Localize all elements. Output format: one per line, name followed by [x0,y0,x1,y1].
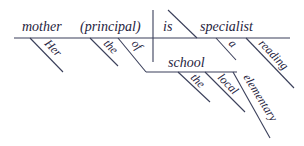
appositive-word: (principal) [80,19,141,35]
predicate-slash [168,10,197,38]
verb-word: is [163,19,173,34]
object-modifier-elementary: elementary [240,71,280,124]
predicate-word: specialist [200,19,254,34]
diagram-canvas: mother (principal) is specialist Her the… [0,0,304,146]
preposition-of: of [129,37,147,55]
sentence-diagram: mother (principal) is specialist Her the… [0,0,304,146]
modifier-the: the [101,36,122,57]
object-modifier-local: local [215,70,242,97]
object-modifier-the: the [188,70,209,91]
object-school: school [168,55,205,70]
modifier-her: Her [41,36,65,60]
subject-word: mother [22,19,62,34]
